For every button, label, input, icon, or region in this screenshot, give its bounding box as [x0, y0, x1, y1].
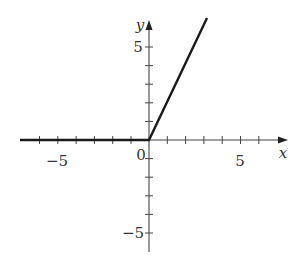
origin-label: 0 — [136, 146, 146, 164]
function-curve — [20, 18, 207, 140]
y-axis-arrow-icon — [146, 20, 153, 30]
x-axis-label: x — [279, 144, 288, 162]
y-tick-label-neg5: −5 — [122, 224, 144, 242]
y-tick-label-5: 5 — [133, 38, 143, 56]
x-tick-label-5: 5 — [235, 152, 245, 170]
chart-canvas: −5 0 5 x y 5 −5 — [0, 0, 291, 264]
x-tick-label-neg5: −5 — [46, 152, 68, 170]
x-axis-arrow-icon — [278, 137, 288, 144]
y-axis-label: y — [135, 16, 145, 34]
